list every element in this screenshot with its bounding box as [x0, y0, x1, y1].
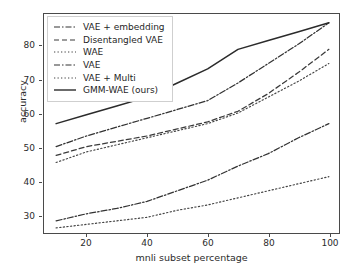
- x-tick-mark-100: [330, 234, 331, 237]
- legend-line-sample-icon: [53, 35, 77, 45]
- series-line-3: [56, 124, 329, 221]
- legend-label-5: GMM-WAE (ours): [83, 85, 158, 95]
- legend-line-sample-icon: [53, 22, 77, 32]
- legend-line-sample-icon: [53, 60, 77, 70]
- y-tick-mark-80: [39, 45, 42, 46]
- x-tick-label-80: 80: [254, 238, 284, 248]
- y-tick-label-30: 30: [10, 211, 35, 221]
- x-tick-mark-60: [208, 234, 209, 237]
- y-tick-label-40: 40: [10, 177, 35, 187]
- legend-line-sample-icon: [53, 73, 77, 83]
- legend-label-2: WAE: [83, 47, 103, 57]
- legend-label-1: Disentangled VAE: [83, 35, 163, 45]
- legend-label-3: VAE: [83, 60, 100, 70]
- x-axis-label: mnli subset percentage: [43, 252, 340, 263]
- series-line-4: [56, 177, 329, 228]
- legend-item-1[interactable]: Disentangled VAE: [53, 34, 165, 47]
- y-tick-mark-50: [39, 148, 42, 149]
- legend-item-4[interactable]: VAE + Multi: [53, 71, 165, 84]
- x-tick-label-40: 40: [132, 238, 162, 248]
- legend-item-5[interactable]: GMM-WAE (ours): [53, 84, 165, 97]
- legend-line-sample-icon: [53, 85, 77, 95]
- x-tick-mark-80: [269, 234, 270, 237]
- x-tick-mark-40: [147, 234, 148, 237]
- y-tick-label-50: 50: [10, 143, 35, 153]
- legend-item-2[interactable]: WAE: [53, 46, 165, 59]
- legend: VAE + embedding Disentangled VAE WAE: [47, 16, 173, 102]
- legend-line-sample-icon: [53, 47, 77, 57]
- legend-label-4: VAE + Multi: [83, 73, 136, 83]
- y-tick-mark-60: [39, 114, 42, 115]
- x-tick-label-100: 100: [315, 238, 345, 248]
- legend-item-3[interactable]: VAE: [53, 59, 165, 72]
- legend-label-0: VAE + embedding: [83, 22, 165, 32]
- legend-item-0[interactable]: VAE + embedding: [53, 21, 165, 34]
- figure: accuracy 80 70 60 50 40 30 20 40 60 80 1…: [0, 0, 353, 272]
- y-tick-mark-30: [39, 216, 42, 217]
- y-tick-mark-40: [39, 182, 42, 183]
- y-tick-label-80: 80: [10, 40, 35, 50]
- x-tick-mark-20: [86, 234, 87, 237]
- y-tick-label-60: 60: [10, 109, 35, 119]
- y-axis-label: accuracy: [17, 57, 28, 147]
- x-tick-label-60: 60: [193, 238, 223, 248]
- y-tick-label-70: 70: [10, 75, 35, 85]
- x-tick-label-20: 20: [71, 238, 101, 248]
- y-tick-mark-70: [39, 80, 42, 81]
